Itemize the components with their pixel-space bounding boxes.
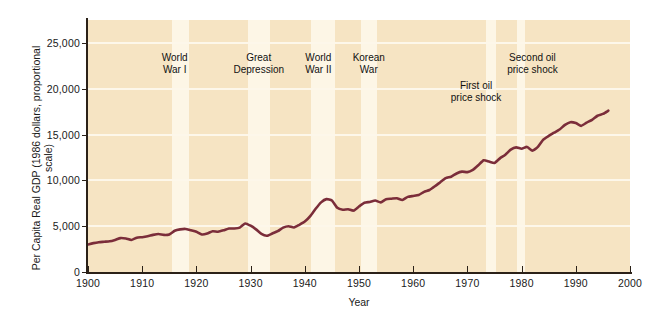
annotation-label-5: Second oil price shock [507, 52, 558, 75]
x-tick-1950 [359, 266, 360, 273]
y-axis-tick-labels: 05,00010,00015,00020,00025,000 [0, 0, 80, 335]
x-tick-label-1940: 1940 [293, 277, 317, 289]
x-tick-label-1930: 1930 [239, 277, 263, 289]
x-tick-label-2000: 2000 [618, 277, 642, 289]
x-tick-1970 [467, 266, 468, 273]
y-axis-spine [86, 18, 88, 274]
plot-area: World War IGreat DepressionWorld War IIK… [88, 20, 630, 272]
annotation-label-0: World War I [162, 52, 188, 75]
x-tick-1940 [305, 266, 306, 273]
x-tick-label-1910: 1910 [130, 277, 154, 289]
x-tick-label-1960: 1960 [401, 277, 425, 289]
x-tick-label-1950: 1950 [347, 277, 371, 289]
x-tick-1900 [88, 266, 89, 273]
y-tick-label-20000: 20,000 [47, 83, 80, 95]
y-tick-label-25000: 25,000 [47, 37, 80, 49]
y-tick-0 [82, 272, 88, 273]
x-tick-1910 [142, 266, 143, 273]
y-tick-20000 [82, 89, 88, 90]
y-tick-25000 [82, 43, 88, 44]
x-tick-1990 [576, 266, 577, 273]
annotation-label-4: First oil price shock [451, 80, 502, 103]
annotation-label-3: Korean War [353, 52, 385, 75]
x-tick-label-1900: 1900 [76, 277, 100, 289]
gdp-line-series [88, 111, 608, 245]
x-tick-1960 [413, 266, 414, 273]
y-tick-15000 [82, 135, 88, 136]
y-tick-5000 [82, 226, 88, 227]
x-tick-label-1920: 1920 [184, 277, 208, 289]
x-tick-label-1980: 1980 [510, 277, 534, 289]
x-tick-1920 [196, 266, 197, 273]
y-tick-label-15000: 15,000 [47, 129, 80, 141]
x-tick-1930 [251, 266, 252, 273]
annotation-label-1: Great Depression [233, 52, 284, 75]
x-axis-title: Year [348, 296, 369, 308]
x-tick-1980 [522, 266, 523, 273]
y-tick-10000 [82, 180, 88, 181]
chart-figure: Per Capita Real GDP (1986 dollars, propo… [0, 0, 659, 335]
annotation-label-2: World War II [305, 52, 331, 75]
x-tick-2000 [630, 266, 631, 273]
x-tick-label-1990: 1990 [564, 277, 588, 289]
y-tick-label-10000: 10,000 [47, 174, 80, 186]
y-tick-label-5000: 5,000 [53, 220, 80, 232]
x-tick-label-1970: 1970 [455, 277, 479, 289]
